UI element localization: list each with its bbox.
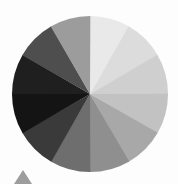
- pie-slice-group: [12, 16, 168, 172]
- color-wheel-canvas: Grayscale Color Wheel: [0, 0, 178, 184]
- color-wheel-chart[interactable]: [0, 0, 178, 184]
